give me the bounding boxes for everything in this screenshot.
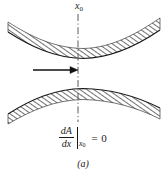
flow-direction-arrow	[33, 67, 78, 74]
figure-container: x0 dA dx x0 =0 (a)	[0, 0, 166, 179]
lower-hatched-band	[0, 82, 166, 132]
arrow-head	[70, 67, 78, 74]
figure-drawing	[0, 0, 166, 179]
upper-hatched-band	[0, 10, 166, 70]
